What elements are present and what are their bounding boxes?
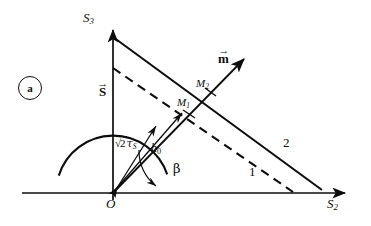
radius-subscript: S xyxy=(133,142,137,151)
vector-s-arrow-accent: → xyxy=(97,78,108,89)
point-label-m2: M2 xyxy=(196,78,209,91)
origin-label: O xyxy=(106,197,115,210)
radius-label: √2τS xyxy=(115,134,136,151)
figure-container: a S3 S2 O → S → m M2 M1 √2τS h0 xyxy=(0,0,371,226)
point-label-m2-text: M xyxy=(196,77,205,89)
vector-label-m-glyph: → m xyxy=(218,52,229,65)
offset-label-h0-subscript: 0 xyxy=(157,147,161,156)
point-label-m1: M1 xyxy=(177,97,190,110)
panel-letter-badge: a xyxy=(18,76,42,100)
axis-label-s2: S2 xyxy=(327,197,338,212)
curve-label-2: 2 xyxy=(283,136,290,149)
offset-label-h0: h0 xyxy=(151,142,161,156)
vector-label-s: → S xyxy=(99,83,106,99)
point-label-m2-subscript: 2 xyxy=(205,82,209,91)
vector-label-s-glyph: → S xyxy=(99,85,106,98)
vector-label-m: → m xyxy=(218,50,229,66)
vector-m-arrow-accent: → xyxy=(218,45,229,56)
axis-label-s2-subscript: 2 xyxy=(334,202,338,212)
point-label-m1-subscript: 1 xyxy=(186,101,190,110)
angle-label-beta: β xyxy=(173,162,181,175)
panel-letter-text: a xyxy=(27,82,33,94)
axis-label-s3-subscript: 3 xyxy=(90,16,94,26)
curve-label-1: 1 xyxy=(249,165,256,178)
radius-label-group: √2τS xyxy=(115,138,136,151)
point-label-m1-text: M xyxy=(177,96,186,108)
axis-label-s3: S3 xyxy=(83,11,94,26)
diagram-canvas xyxy=(0,0,371,226)
